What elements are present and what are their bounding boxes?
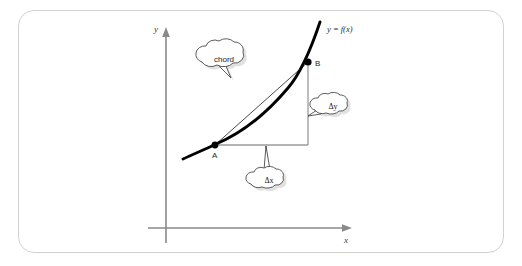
callout-chord: chord xyxy=(196,39,247,81)
x-axis-label: x xyxy=(343,235,348,245)
point-b-dot xyxy=(304,58,311,65)
point-b-label: B xyxy=(315,59,320,68)
point-b-group: B xyxy=(304,58,320,68)
delta-y-callout-label: Δy xyxy=(328,102,337,111)
y-axis-arrowhead xyxy=(162,27,170,37)
function-curve xyxy=(183,22,320,159)
point-a-label: A xyxy=(212,151,218,160)
axes-group: y x xyxy=(148,24,352,245)
point-a-dot xyxy=(212,142,219,149)
x-axis-arrowhead xyxy=(342,224,352,232)
point-a-group: A xyxy=(212,142,219,160)
curve-equation-label: y = f(x) xyxy=(326,24,353,34)
chord-diagram: y x y = f(x) A B chord xyxy=(0,0,522,266)
callout-delta-x: Δx xyxy=(246,146,287,191)
chord-callout-label: chord xyxy=(214,55,234,64)
delta-x-callout-label: Δx xyxy=(264,176,273,185)
callout-delta-y: Δy xyxy=(308,92,350,117)
y-axis-label: y xyxy=(153,24,158,34)
